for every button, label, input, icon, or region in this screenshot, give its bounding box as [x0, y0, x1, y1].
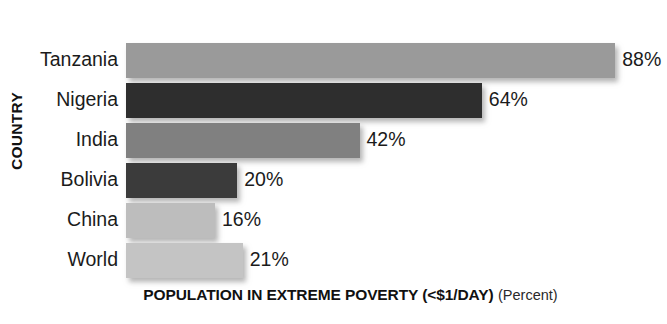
x-axis-title-main: POPULATION IN EXTREME POVERTY (<$1/DAY) — [143, 286, 493, 303]
bar-value-bolivia: 20% — [244, 170, 283, 190]
bar-chart-figure: COUNTRY Tanzania 88% Nigeria 64% India 4… — [0, 0, 667, 324]
bar-value-nigeria: 64% — [489, 90, 528, 110]
bar-china — [126, 203, 215, 238]
bar-row: China 16% — [34, 200, 667, 240]
category-label-tanzania: Tanzania — [34, 50, 126, 70]
bar-world — [126, 243, 243, 278]
bar-value-world: 21% — [250, 250, 289, 270]
bar-row: Bolivia 20% — [34, 160, 667, 200]
bar-tanzania — [126, 43, 615, 78]
bar-value-tanzania: 88% — [622, 50, 661, 70]
x-axis-title-unit: (Percent) — [498, 287, 558, 303]
bar-india — [126, 123, 360, 158]
bar-track: 88% — [126, 40, 667, 80]
category-label-nigeria: Nigeria — [34, 90, 126, 110]
category-label-bolivia: Bolivia — [34, 170, 126, 190]
bar-row: India 42% — [34, 120, 667, 160]
bar-track: 20% — [126, 160, 667, 200]
bar-track: 64% — [126, 80, 667, 120]
bar-row: World 21% — [34, 240, 667, 280]
bar-value-china: 16% — [222, 210, 261, 230]
bar-value-india: 42% — [367, 130, 406, 150]
y-axis-title: COUNTRY — [0, 0, 34, 262]
bar-track: 21% — [126, 240, 667, 280]
bar-row: Nigeria 64% — [34, 80, 667, 120]
category-label-india: India — [34, 130, 126, 150]
category-label-world: World — [34, 250, 126, 270]
x-axis-title: POPULATION IN EXTREME POVERTY (<$1/DAY) … — [34, 286, 667, 304]
category-label-china: China — [34, 210, 126, 230]
bar-track: 16% — [126, 200, 667, 240]
bar-bolivia — [126, 163, 237, 198]
plot-area: Tanzania 88% Nigeria 64% India 42% Boliv… — [34, 40, 667, 282]
bar-track: 42% — [126, 120, 667, 160]
bar-row: Tanzania 88% — [34, 40, 667, 80]
y-axis-title-label: COUNTRY — [8, 92, 26, 170]
bar-nigeria — [126, 83, 482, 118]
